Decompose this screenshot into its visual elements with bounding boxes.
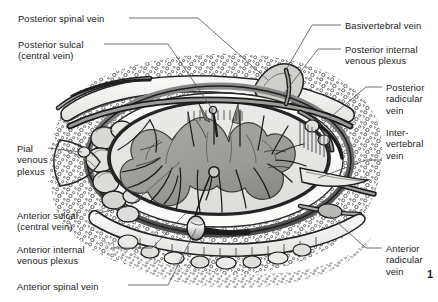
label-line: Inter- [386, 127, 408, 138]
leader-line-anterior-radicular-vein [330, 216, 382, 248]
label-line: plexus [17, 166, 45, 177]
label-line: Anterior spinal vein [17, 281, 99, 292]
figure-container: Posterior spinal veinPosterior sulcal(ce… [0, 0, 438, 302]
label-anterior-spinal-vein: Anterior spinal vein [17, 281, 99, 292]
label-line: Pial [17, 143, 33, 154]
label-line: Anterior internal [17, 244, 85, 255]
label-basivertebral-vein: Basivertebral vein [345, 20, 421, 31]
label-line: vein [386, 150, 404, 161]
label-line: vein [386, 266, 404, 277]
label-line: (central vein) [18, 50, 74, 61]
label-pial-venous-plexus: Pialvenousplexus [17, 143, 48, 177]
leader-line-posterior-spinal-vein [129, 18, 268, 80]
label-anterior-radicular-vein: Anteriorradicularvein [386, 243, 423, 277]
leader-line-posterior-sulcal-central-vein [104, 44, 213, 110]
label-line: radicular [386, 93, 423, 104]
label-line: Anterior sulcal [17, 210, 78, 221]
label-line: venous plexus [17, 255, 78, 266]
label-posterior-internal-venous-plexus: Posterior internalvenous plexus [345, 44, 418, 67]
leader-line-posterior-internal-venous-plexus [282, 49, 341, 96]
label-line: (central vein) [17, 221, 73, 232]
label-line: vein [386, 105, 404, 116]
label-line: venous [17, 154, 48, 165]
leader-line-posterior-radicular-vein [320, 87, 382, 126]
label-intervertebral-vein: Inter-vertebralvein [386, 127, 423, 161]
label-anterior-internal-venous-plexus: Anterior internalvenous plexus [17, 244, 85, 267]
label-line: Posterior [386, 82, 424, 93]
label-line: vertebral [386, 138, 423, 149]
label-posterior-spinal-vein: Posterior spinal vein [18, 13, 104, 24]
leader-line-intervertebral-vein [318, 160, 382, 178]
label-anterior-sulcal-central-vein: Anterior sulcal(central vein) [17, 210, 78, 233]
label-line: venous plexus [345, 55, 406, 66]
label-line: Anterior [386, 243, 420, 254]
figure-number: 1 [427, 268, 438, 280]
label-line: Posterior sulcal [18, 39, 84, 50]
label-line: Posterior spinal vein [18, 13, 104, 24]
label-line: Posterior internal [345, 44, 418, 55]
label-line: Basivertebral vein [345, 20, 421, 31]
label-posterior-sulcal-central-vein: Posterior sulcal(central vein) [18, 39, 84, 62]
leader-line-anterior-internal-venous-plexus [111, 213, 186, 248]
label-posterior-radicular-vein: Posteriorradicularvein [386, 82, 424, 116]
label-layer: Posterior spinal veinPosterior sulcal(ce… [0, 0, 438, 302]
label-line: radicular [386, 254, 423, 265]
leader-line-pial-venous-plexus [48, 148, 82, 152]
leader-line-anterior-sulcal-central-vein [95, 162, 180, 214]
leader-line-basivertebral-vein [286, 25, 341, 70]
